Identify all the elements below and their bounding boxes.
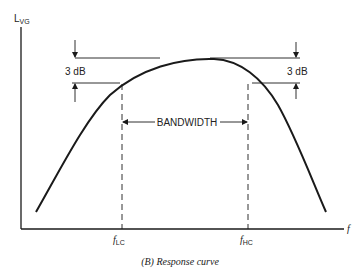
response-curve-diagram: LVG f 3 dB 3 dB BANDWIDTH fLC fHC (B) Re… <box>0 0 359 276</box>
left-3db-label: 3 dB <box>65 66 86 77</box>
lower-cutoff-label: fLC <box>113 234 125 246</box>
bandwidth-label: BANDWIDTH <box>157 117 218 128</box>
y-axis-label: LVG <box>14 13 30 25</box>
response-curve <box>36 59 326 212</box>
x-axis-label: f <box>347 223 351 234</box>
figure-caption: (B) Response curve <box>141 256 219 268</box>
right-3db-label: 3 dB <box>287 66 308 77</box>
upper-cutoff-label: fHC <box>240 234 253 246</box>
